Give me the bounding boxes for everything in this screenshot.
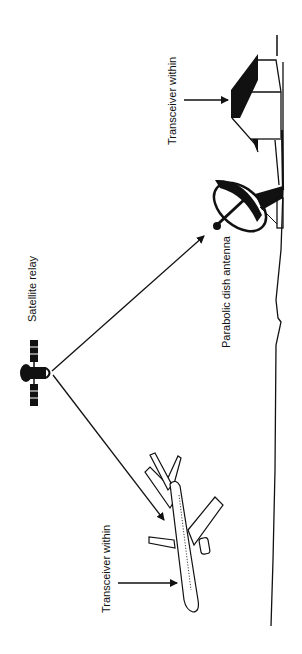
- aircraft-icon: [145, 453, 223, 612]
- label-dish: Parabolic dish antenna: [220, 235, 232, 348]
- building-icon: [231, 35, 283, 190]
- label-satellite: Satellite relay: [26, 255, 38, 322]
- dish-antenna-icon: [205, 173, 283, 241]
- satellite-diagram: Transceiver within Satellite relay Parab…: [0, 0, 302, 654]
- link-satellite-dish: [52, 236, 204, 371]
- label-building-transceiver: Transceiver within: [166, 57, 178, 145]
- label-aircraft-transceiver: Transceiver within: [100, 525, 112, 613]
- satellite-icon: [20, 340, 50, 406]
- link-satellite-aircraft: [53, 375, 164, 520]
